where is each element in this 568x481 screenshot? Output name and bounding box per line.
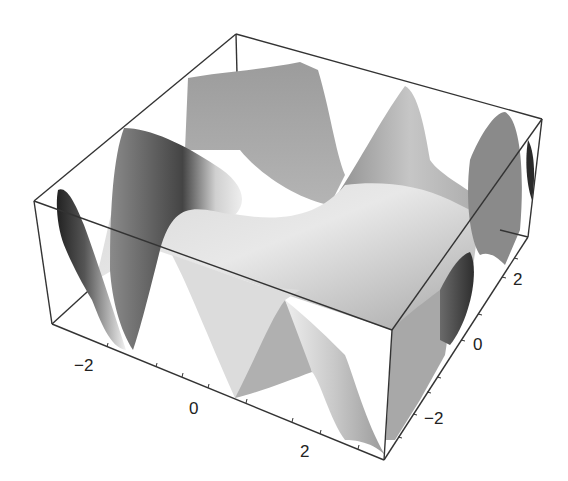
y-tick-label-2: 2 [513, 271, 522, 288]
x-tick-label-0: 0 [189, 400, 198, 417]
x-tick-label-neg2: −2 [74, 357, 93, 374]
surface-plot: −2 0 2 −2 0 2 [0, 0, 568, 481]
y-tick-label-0: 0 [473, 336, 482, 353]
x-tick-label-2: 2 [300, 443, 309, 460]
front-trough [285, 300, 385, 455]
surface [57, 62, 534, 455]
right-peak [468, 112, 522, 265]
y-tick-label-neg2: −2 [424, 410, 443, 427]
plot-canvas [0, 0, 568, 481]
